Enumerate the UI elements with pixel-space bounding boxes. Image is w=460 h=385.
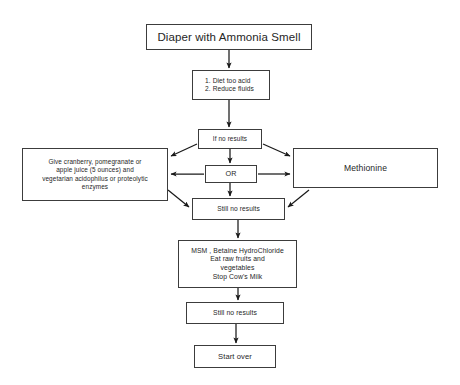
node-start-over: Start over <box>194 345 276 368</box>
node-line: 2. Reduce fluids <box>205 85 254 93</box>
node-juice-and-acidophilus: Give cranberry, pomegranate or apple jui… <box>22 148 168 201</box>
node-line: Methionine <box>344 163 387 174</box>
node-still-no-results-second: Still no results <box>186 302 284 324</box>
node-line: Start over <box>218 352 252 362</box>
edge-ifno-to-right <box>263 144 290 156</box>
node-msm-betaine-hydrochloride: MSM , Betaine HydroChloride Eat raw frui… <box>178 240 297 288</box>
node-line: enzymes <box>82 183 108 191</box>
node-initial-steps: 1. Diet too acid 2. Reduce fluids <box>192 70 270 100</box>
node-line: If no results <box>213 135 247 143</box>
node-line: 1. Diet too acid <box>205 77 251 85</box>
node-line: Diaper with Ammonia Smell <box>157 30 300 45</box>
node-line: Eat raw fruits and <box>210 255 265 264</box>
node-or: OR <box>205 165 257 183</box>
node-diaper-with-ammonia-smell: Diaper with Ammonia Smell <box>146 24 312 50</box>
node-line: MSM , Betaine HydroChloride <box>191 247 284 256</box>
node-still-no-results-first: Still no results <box>192 198 285 220</box>
node-line: vegetables <box>221 264 255 273</box>
edge-ifno-to-left <box>171 144 197 156</box>
node-line: Still no results <box>217 205 260 213</box>
edge-left-to-still1 <box>168 190 189 207</box>
node-line: vegetarian acidophilus or proteolytic <box>42 175 148 183</box>
node-line: apple juice (5 ounces) and <box>56 166 134 174</box>
node-if-no-results: If no results <box>198 129 262 149</box>
node-line: Give cranberry, pomegranate or <box>48 158 141 166</box>
edge-right-to-still1 <box>288 190 309 207</box>
node-line: Still no results <box>213 309 257 318</box>
node-line: OR <box>226 169 237 178</box>
node-line: Stop Cow's Milk <box>213 273 263 282</box>
node-methionine: Methionine <box>293 148 438 188</box>
flowchart-canvas: Diaper with Ammonia Smell 1. Diet too ac… <box>0 0 460 385</box>
